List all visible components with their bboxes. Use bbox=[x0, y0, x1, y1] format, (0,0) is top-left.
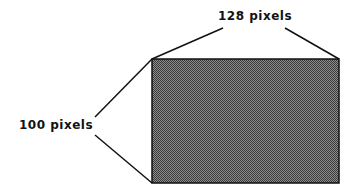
width-label: 128 pixels bbox=[218, 9, 292, 23]
height-leader-top bbox=[95, 59, 152, 117]
width-leader-left bbox=[152, 28, 223, 59]
height-label: 100 pixels bbox=[19, 118, 93, 132]
height-leader-bottom bbox=[95, 135, 152, 183]
width-leader-right bbox=[285, 28, 339, 59]
pixel-rectangle bbox=[152, 59, 339, 183]
diagram-canvas bbox=[0, 0, 357, 196]
